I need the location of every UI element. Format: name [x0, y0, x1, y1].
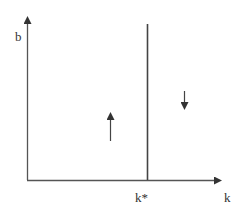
k-star-label: k*	[135, 191, 148, 204]
y-axis-label: b	[15, 30, 22, 43]
x-axis-label: k	[224, 191, 231, 204]
phase-diagram	[0, 0, 239, 211]
